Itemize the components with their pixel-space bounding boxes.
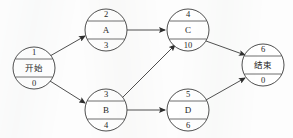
node-start-label: 开始 [25,63,43,73]
node-d[interactable]: 5 D 6 [167,89,209,131]
node-b-number: 3 [104,89,108,99]
node-c-duration: 10 [184,40,193,50]
node-d-number: 5 [186,89,190,99]
node-a-duration: 3 [104,40,108,50]
node-c[interactable]: 4 C 10 [167,9,209,51]
node-end[interactable]: 6 结束 0 [242,44,284,86]
node-a-label: A [103,25,110,35]
node-end-number: 6 [261,44,265,54]
node-a-number: 2 [104,9,108,19]
diagram-canvas: 1 开始 0 2 A 3 3 B 4 4 C [0,0,293,138]
node-b-label: B [103,105,109,115]
edge-c-to-end [206,41,245,55]
node-start-number: 1 [32,47,36,57]
node-start-duration: 0 [32,78,36,88]
node-b[interactable]: 3 B 4 [85,89,127,131]
edge-b-to-c [122,45,175,98]
node-end-duration: 0 [261,75,265,85]
node-d-duration: 6 [186,120,190,130]
edge-start-to-b [50,81,85,103]
edge-group [50,30,245,110]
node-start[interactable]: 1 开始 0 [13,47,55,89]
node-c-label: C [185,25,191,35]
node-a[interactable]: 2 A 3 [85,9,127,51]
edge-d-to-end [206,78,245,100]
activity-network-diagram: 1 开始 0 2 A 3 3 B 4 4 C [0,0,293,138]
node-d-label: D [185,105,192,115]
edge-start-to-a [50,36,85,56]
node-end-label: 结束 [254,60,272,70]
